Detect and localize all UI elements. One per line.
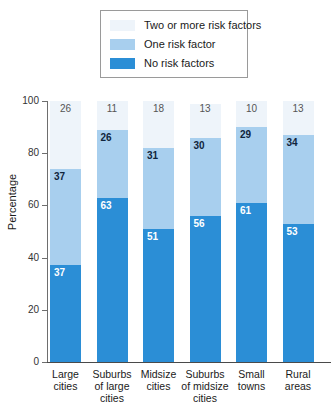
y-axis-tick-label: 80 (11, 148, 39, 158)
bar-value-label: 31 (147, 151, 158, 161)
bar-segment-one-risk-factor: 30 (190, 138, 221, 216)
bar-value-label: 56 (194, 219, 205, 229)
bar-value-label: 29 (240, 130, 251, 140)
bar-value-label: 37 (54, 172, 65, 182)
bar-value-label: 61 (240, 206, 251, 216)
y-axis-tick (42, 153, 47, 154)
bar-top-value-label: 13 (190, 104, 221, 114)
y-axis-tick-label: 40 (11, 253, 39, 263)
bar-suburbs-of-large-cities: 2663 (97, 101, 128, 362)
legend-item-one: One risk factor (101, 35, 247, 54)
bar-top-value-label: 18 (143, 104, 174, 114)
bar-segment-no-risk-factors: 63 (97, 198, 128, 362)
legend-item-two-or-more: Two or more risk factors (101, 16, 247, 35)
bar-value-label: 30 (194, 141, 205, 151)
legend-label-two-or-more: Two or more risk factors (144, 20, 261, 31)
bar-suburbs-of-midsize-cities: 3056 (190, 101, 221, 362)
y-axis-tick-label: 100 (11, 96, 39, 106)
x-axis-line (47, 362, 331, 363)
bar-midsize-cities: 3151 (143, 101, 174, 362)
legend-swatch-icon-two-or-more (110, 20, 135, 31)
y-axis-tick (42, 258, 47, 259)
y-axis-tick (42, 310, 47, 311)
y-axis-tick-label: 60 (11, 200, 39, 210)
stacked-bar-chart: Two or more risk factors One risk factor… (0, 0, 331, 417)
legend-label-none: No risk factors (144, 58, 214, 69)
bar-segment-no-risk-factors: 56 (190, 216, 221, 362)
y-axis-tick (42, 101, 47, 102)
bar-segment-one-risk-factor: 29 (236, 127, 267, 203)
bar-top-value-label: 13 (283, 104, 314, 114)
y-axis-tick-label: 0 (11, 357, 39, 367)
bar-segment-one-risk-factor: 34 (283, 135, 314, 224)
bar-value-label: 34 (287, 138, 298, 148)
bar-segment-no-risk-factors: 37 (50, 265, 81, 362)
category-label-rural-areas: Ruralareas (271, 368, 325, 392)
bar-segment-one-risk-factor: 37 (50, 169, 81, 266)
bar-segment-no-risk-factors: 61 (236, 203, 267, 362)
bar-value-label: 51 (147, 232, 158, 242)
bar-top-value-label: 11 (97, 104, 128, 114)
bar-large-cities: 3737 (50, 101, 81, 362)
bar-segment-one-risk-factor: 26 (97, 130, 128, 198)
bar-top-value-label: 10 (236, 104, 267, 114)
bar-value-label: 63 (101, 201, 112, 211)
bar-value-label: 26 (101, 133, 112, 143)
chart-legend: Two or more risk factors One risk factor… (100, 10, 248, 78)
y-axis-tick-label: 20 (11, 305, 39, 315)
bar-segment-no-risk-factors: 53 (283, 224, 314, 362)
bar-value-label: 53 (287, 227, 298, 237)
y-axis-tick (42, 205, 47, 206)
bar-segment-one-risk-factor: 31 (143, 148, 174, 229)
legend-swatch-icon-one (110, 39, 135, 50)
bar-rural-areas: 3453 (283, 101, 314, 362)
bar-top-value-label: 26 (50, 104, 81, 114)
legend-label-one: One risk factor (144, 39, 216, 50)
plot-area: 373726633151305629613453 (48, 101, 331, 362)
y-axis-tick (42, 362, 47, 363)
legend-swatch-icon-none (110, 58, 135, 69)
bar-value-label: 37 (54, 268, 65, 278)
bar-small-towns: 2961 (236, 101, 267, 362)
bar-segment-no-risk-factors: 51 (143, 229, 174, 362)
legend-item-none: No risk factors (101, 54, 247, 73)
